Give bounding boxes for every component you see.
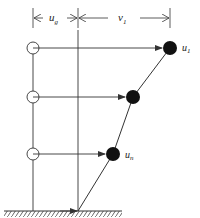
dimension-annotations: ug v1 <box>33 8 170 28</box>
mass-3 <box>106 147 120 161</box>
displacement-diagram: ug v1 u1 un <box>0 0 200 218</box>
ground-hatching <box>4 211 122 217</box>
deformed-shape-line <box>78 48 170 211</box>
mass-2 <box>126 90 140 104</box>
mass-1 <box>163 41 177 55</box>
mass-label-u1: u1 <box>182 42 191 55</box>
mass-label-un: un <box>125 149 134 162</box>
ground <box>4 211 122 217</box>
v1-label: v1 <box>118 11 126 26</box>
displacement-arrows <box>33 48 162 211</box>
ug-label: ug <box>49 11 59 26</box>
